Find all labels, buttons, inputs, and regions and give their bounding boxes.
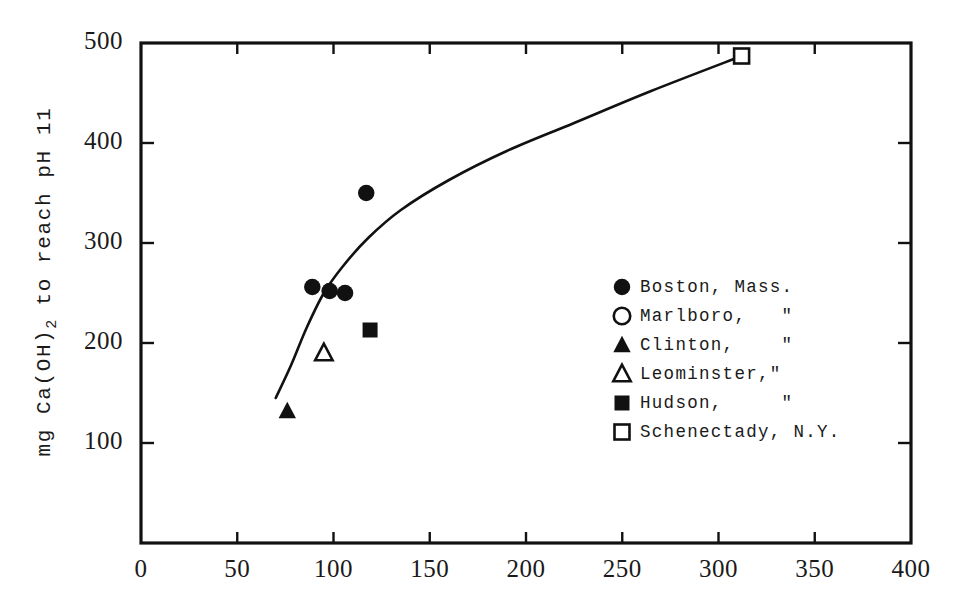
x-tick-label: 200 — [486, 555, 566, 583]
x-tick-label: 150 — [390, 555, 470, 583]
filled-circle-icon — [610, 272, 640, 301]
legend-label: Boston, Mass. — [640, 277, 793, 297]
open-circle-icon — [610, 301, 640, 330]
x-tick-label: 50 — [197, 555, 277, 583]
x-tick-label: 350 — [775, 555, 855, 583]
x-tick-label: 100 — [294, 555, 374, 583]
y-axis-label-tail: to reach pH 11 — [33, 107, 56, 320]
x-tick-label: 300 — [679, 555, 759, 583]
filled-circle-glyph — [614, 279, 631, 296]
x-tick-label: 250 — [582, 555, 662, 583]
data-point-open-triangle — [315, 344, 332, 361]
data-point-filled-circle — [337, 285, 354, 302]
data-point-open-square — [734, 49, 749, 64]
data-point-filled-triangle — [279, 402, 296, 419]
data-point-filled-circle — [304, 279, 321, 296]
legend-item-leominster[interactable]: Leominster," — [610, 359, 910, 388]
y-axis-label: mg Ca(OH)2 to reach pH 11 — [33, 72, 60, 492]
open-triangle-icon — [610, 359, 640, 388]
filled-triangle-glyph — [613, 336, 630, 353]
data-point-filled-circle — [321, 283, 338, 300]
open-square-glyph — [615, 425, 630, 440]
legend-label: Schenectady, N.Y. — [640, 422, 841, 442]
legend-label: Leominster," — [640, 364, 782, 384]
legend-label: Marlboro, " — [640, 306, 793, 326]
y-tick-label: 500 — [53, 27, 123, 55]
legend-item-boston-mass[interactable]: Boston, Mass. — [610, 272, 910, 301]
chart-figure: 100200300400500 050100150200250300350400… — [0, 0, 962, 606]
legend-item-schenectady-n-y[interactable]: Schenectady, N.Y. — [610, 417, 910, 446]
y-tick-label: 200 — [53, 327, 123, 355]
y-tick-label: 100 — [53, 427, 123, 455]
y-tick-label: 300 — [53, 227, 123, 255]
y-axis-label-subscript: 2 — [44, 320, 61, 329]
legend-item-marlboro[interactable]: Marlboro, " — [610, 301, 910, 330]
open-circle-glyph — [614, 308, 631, 325]
x-tick-label: 400 — [871, 555, 951, 583]
data-point-filled-circle — [358, 185, 375, 202]
filled-triangle-icon — [610, 330, 640, 359]
data-point-filled-square — [363, 323, 378, 338]
legend-label: Hudson, " — [640, 393, 793, 413]
chart-legend: Boston, Mass.Marlboro, "Clinton, "Leomin… — [610, 272, 910, 446]
open-triangle-glyph — [613, 365, 630, 382]
y-tick-label: 400 — [53, 127, 123, 155]
x-tick-label: 0 — [101, 555, 181, 583]
y-axis-label-base: mg Ca(OH) — [33, 329, 56, 457]
legend-item-clinton[interactable]: Clinton, " — [610, 330, 910, 359]
legend-label: Clinton, " — [640, 335, 793, 355]
legend-item-hudson[interactable]: Hudson, " — [610, 388, 910, 417]
filled-square-glyph — [615, 396, 630, 411]
open-square-icon — [610, 417, 640, 446]
filled-square-icon — [610, 388, 640, 417]
